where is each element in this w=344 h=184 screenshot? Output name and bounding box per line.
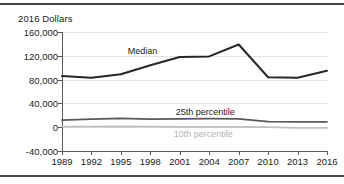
x-axis-tick-label: 1995 <box>110 156 131 167</box>
x-axis-tick-label: 1989 <box>51 156 72 167</box>
x-axis-tick <box>180 151 181 155</box>
x-axis-tick <box>268 151 269 155</box>
x-axis-tick <box>209 151 210 155</box>
y-axis-tick-label: 160,000 <box>24 27 58 38</box>
x-axis-tick <box>298 151 299 155</box>
page-rule-top <box>0 3 344 5</box>
y-axis-tick-label: 40,000 <box>29 98 58 109</box>
chart-figure: 2016 Dollars -40,000040,00080,000120,000… <box>0 0 344 184</box>
x-axis-tick-label: 2001 <box>169 156 190 167</box>
series-annotation: 25th percentile <box>176 107 235 117</box>
x-axis-tick <box>327 151 328 155</box>
series-line-median <box>62 45 327 78</box>
x-axis-tick-label: 1998 <box>140 156 161 167</box>
x-axis-tick-label: 2016 <box>316 156 337 167</box>
x-axis-tick <box>91 151 92 155</box>
x-axis-tick <box>62 151 63 155</box>
x-axis-tick <box>150 151 151 155</box>
series-annotation: 10th percentile <box>174 129 233 139</box>
page-rule-bottom <box>0 175 344 177</box>
y-axis-tick-label: 80,000 <box>29 74 58 85</box>
x-axis-tick-label: 2007 <box>228 156 249 167</box>
x-axis-tick-label: 2010 <box>258 156 279 167</box>
series-annotation: Median <box>128 46 158 56</box>
x-axis-tick <box>239 151 240 155</box>
y-axis-tick-label: -40,000 <box>26 146 58 157</box>
x-axis-tick-label: 2004 <box>199 156 220 167</box>
x-axis-tick-label: 1992 <box>81 156 102 167</box>
x-axis-tick-label: 2013 <box>287 156 308 167</box>
y-axis-tick-labels: -40,000040,00080,000120,000160,000 <box>0 32 58 151</box>
y-axis-tick-label: 120,000 <box>24 50 58 61</box>
y-axis-title: 2016 Dollars <box>18 13 73 24</box>
plot-area: Median25th percentile10th percentile <box>62 32 327 151</box>
series-line-25th-percentile <box>62 118 327 122</box>
x-axis-line <box>62 151 327 152</box>
x-axis-tick-labels: 1989199219951998200120042007201020132016 <box>62 156 327 170</box>
series-line-10th-percentile <box>62 126 327 127</box>
x-axis-tick <box>121 151 122 155</box>
